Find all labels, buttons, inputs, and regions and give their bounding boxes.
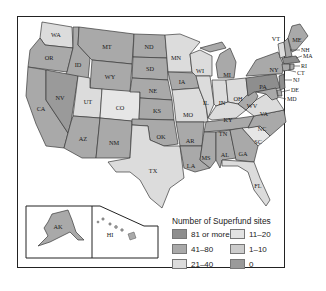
legend-item-11-20: 11–20: [230, 229, 280, 239]
svg-text:AZ: AZ: [79, 135, 88, 142]
svg-text:ME: ME: [292, 36, 302, 43]
svg-text:MD: MD: [287, 96, 297, 102]
legend-item-0: 0: [230, 259, 280, 269]
svg-text:CA: CA: [37, 105, 46, 112]
svg-text:KS: KS: [153, 107, 162, 114]
svg-text:RI: RI: [301, 63, 307, 69]
svg-text:NC: NC: [258, 125, 267, 132]
legend-swatch: [230, 259, 245, 269]
svg-text:IA: IA: [179, 78, 186, 85]
legend-item-1-10: 1–10: [230, 244, 280, 254]
svg-text:NY: NY: [269, 66, 279, 73]
svg-text:TN: TN: [219, 130, 228, 137]
svg-text:ND: ND: [144, 43, 154, 50]
svg-text:NJ: NJ: [293, 77, 300, 83]
state-fl[interactable]: [222, 160, 270, 206]
legend-swatch: [230, 244, 245, 254]
legend: Number of Superfund sites 81 or more 11–…: [172, 216, 285, 269]
svg-text:OH: OH: [233, 95, 243, 102]
state-nj[interactable]: [279, 74, 285, 90]
svg-text:AK: AK: [53, 223, 63, 230]
svg-text:KY: KY: [223, 116, 233, 123]
svg-text:MN: MN: [171, 54, 182, 61]
svg-text:PA: PA: [259, 83, 267, 90]
svg-text:UT: UT: [84, 98, 93, 105]
svg-text:DE: DE: [291, 87, 299, 93]
svg-text:WY: WY: [105, 73, 116, 80]
svg-text:NV: NV: [55, 94, 65, 101]
svg-text:WA: WA: [51, 31, 61, 38]
svg-text:MI: MI: [223, 71, 231, 78]
svg-text:WV: WV: [247, 102, 258, 109]
legend-items: 81 or more 11–20 41–80 1–10 21–40 0: [172, 229, 285, 269]
svg-text:OK: OK: [156, 133, 166, 140]
svg-text:LA: LA: [187, 162, 196, 169]
legend-item-81-or-more: 81 or more: [172, 229, 230, 239]
svg-text:OR: OR: [45, 54, 55, 61]
svg-text:ID: ID: [75, 61, 82, 68]
svg-text:HI: HI: [107, 231, 114, 238]
svg-text:SD: SD: [146, 65, 155, 72]
state-ri[interactable]: [290, 64, 294, 70]
svg-text:VA: VA: [260, 110, 269, 117]
svg-text:CO: CO: [116, 104, 125, 111]
svg-text:MA: MA: [303, 53, 313, 59]
state-ma[interactable]: [282, 56, 300, 64]
legend-item-21-40: 21–40: [172, 259, 230, 269]
svg-text:TX: TX: [149, 167, 158, 174]
state-nm[interactable]: [96, 118, 132, 158]
svg-text:GA: GA: [238, 150, 248, 157]
svg-text:VT: VT: [272, 35, 281, 42]
legend-swatch: [172, 229, 187, 239]
svg-text:AL: AL: [221, 151, 230, 158]
svg-text:IN: IN: [219, 99, 226, 106]
legend-swatch: [172, 244, 187, 254]
legend-swatch: [230, 229, 245, 239]
svg-text:FL: FL: [254, 182, 262, 189]
svg-text:AR: AR: [186, 137, 196, 144]
legend-title: Number of Superfund sites: [172, 216, 285, 226]
legend-item-41-80: 41–80: [172, 244, 230, 254]
svg-text:MO: MO: [183, 111, 194, 118]
svg-text:IL: IL: [203, 99, 209, 106]
svg-text:NM: NM: [109, 139, 120, 146]
state-hi[interactable]: [97, 218, 136, 240]
svg-text:MS: MS: [201, 154, 211, 161]
svg-text:CT: CT: [297, 70, 305, 76]
legend-swatch: [172, 259, 187, 269]
svg-text:SC: SC: [254, 138, 262, 145]
svg-text:NE: NE: [149, 87, 158, 94]
svg-text:MT: MT: [102, 43, 112, 50]
svg-text:WI: WI: [196, 67, 204, 74]
